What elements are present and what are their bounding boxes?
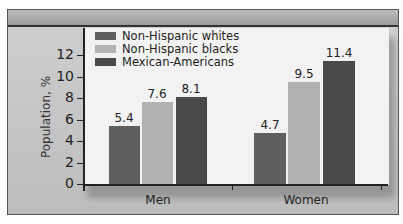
legend-item-mexican: Mexican-Americans: [95, 55, 239, 68]
legend-label-whites: Non-Hispanic whites: [122, 29, 239, 43]
ytick-label-8: 8: [44, 89, 74, 105]
bar-women-whites: [254, 133, 286, 184]
xtick-mid: [232, 184, 233, 190]
legend-label-blacks: Non-Hispanic blacks: [122, 42, 238, 56]
bar-men-blacks: [142, 102, 173, 184]
y-axis-line: [83, 28, 85, 191]
ytick-label-0: 0: [44, 175, 74, 191]
ytick-label-10: 10: [44, 68, 74, 84]
legend-item-whites: Non-Hispanic whites: [95, 29, 239, 42]
legend-swatch-blacks: [95, 45, 116, 53]
value-women-mexican: 11.4: [319, 46, 359, 60]
value-women-blacks: 9.5: [284, 67, 324, 81]
category-label-women: Women: [266, 193, 346, 207]
bar-men-whites: [109, 126, 140, 184]
x-axis-line: [83, 184, 388, 186]
legend-swatch-mexican: [95, 58, 116, 66]
value-men-mexican: 8.1: [171, 82, 211, 96]
legend-label-mexican: Mexican-Americans: [122, 55, 234, 69]
chart-frame: Population, % 0 2 4 6 8 10 12 Non-Hispan…: [7, 9, 399, 215]
bar-women-mexican: [323, 61, 355, 184]
value-women-whites: 4.7: [250, 118, 290, 132]
xtick-end: [381, 184, 382, 190]
legend-swatch-whites: [95, 32, 116, 40]
bar-men-mexican: [176, 97, 207, 184]
category-label-men: Men: [118, 193, 198, 207]
value-men-whites: 5.4: [104, 111, 144, 125]
ytick-label-2: 2: [44, 154, 74, 170]
ytick-label-4: 4: [44, 132, 74, 148]
ytick-label-12: 12: [44, 46, 74, 62]
bar-women-blacks: [288, 82, 320, 184]
legend-item-blacks: Non-Hispanic blacks: [95, 42, 239, 55]
legend: Non-Hispanic whites Non-Hispanic blacks …: [95, 29, 239, 68]
chart-header-bar: [8, 10, 398, 27]
ytick-label-6: 6: [44, 111, 74, 127]
